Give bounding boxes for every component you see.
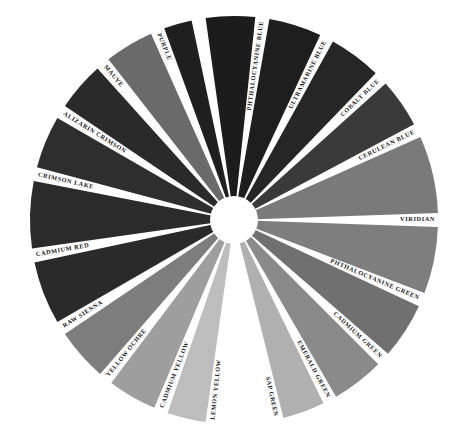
color-wheel: PHTHALOCYANINE BLUEULTRAMARINE BLUECOBAL… (0, 0, 465, 445)
label-viridian: VIRIDIAN (400, 215, 435, 222)
center-hub (210, 196, 258, 244)
